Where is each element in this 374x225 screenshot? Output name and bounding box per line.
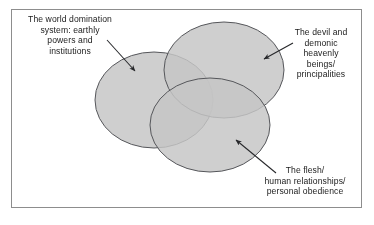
diagram-canvas: The world domination system: earthly pow…	[0, 0, 374, 225]
set-label-line: demonic	[277, 38, 365, 49]
ellipse-the-flesh	[150, 78, 270, 172]
set-label-line: human relationships/	[248, 176, 362, 187]
set-label-line: heavenly	[277, 48, 365, 59]
set-label-line: personal obedience	[248, 186, 362, 197]
set-label-line: institutions	[14, 46, 126, 57]
set-label-world-domination-system: The world domination system: earthly pow…	[14, 14, 126, 56]
set-label-the-flesh: The flesh/ human relationships/ personal…	[248, 165, 362, 197]
set-label-devil-and-demonic-beings: The devil and demonic heavenly beings/ p…	[277, 27, 365, 80]
set-label-line: system: earthly	[14, 25, 126, 36]
set-label-line: powers and	[14, 35, 126, 46]
set-label-line: The flesh/	[248, 165, 362, 176]
set-label-line: The devil and	[277, 27, 365, 38]
set-label-line: beings/	[277, 59, 365, 70]
set-label-line: principalities	[277, 69, 365, 80]
set-label-line: The world domination	[14, 14, 126, 25]
